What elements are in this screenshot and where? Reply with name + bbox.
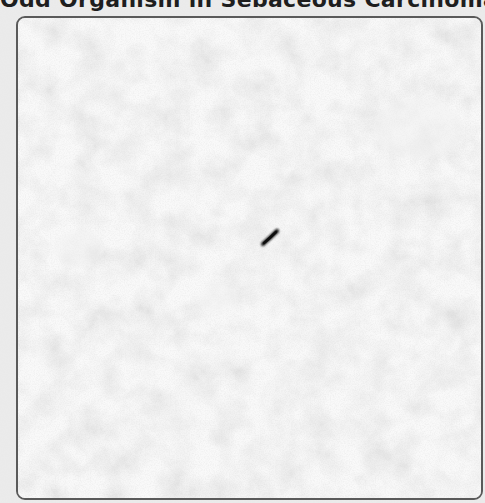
light-patch (53, 230, 103, 266)
micrograph-image (18, 18, 481, 498)
light-patch (198, 284, 238, 312)
light-patch (373, 98, 463, 158)
micrograph-frame (16, 16, 483, 500)
figure-title: Odd Organism in Sebaceous Carcinoma (0, 0, 485, 12)
